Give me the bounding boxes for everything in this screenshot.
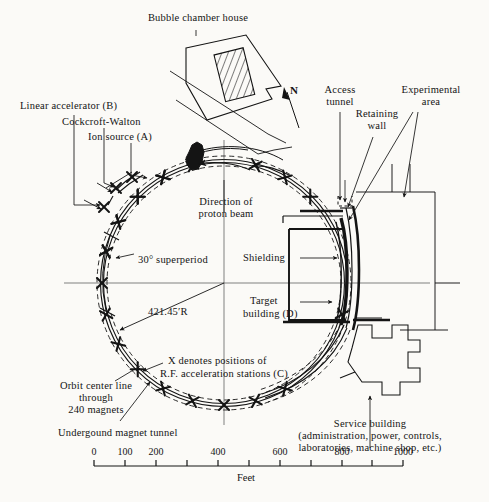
injection-beamline bbox=[84, 172, 143, 212]
scale-unit-label: Feet bbox=[216, 472, 276, 483]
scale-tick-label-400: 400 bbox=[204, 446, 232, 457]
label-service-building-line1: Service building bbox=[300, 418, 440, 431]
label-shielding: Shielding bbox=[243, 252, 285, 265]
label-experimental-area-line1: Experimental bbox=[392, 84, 470, 97]
label-underground-tunnel: Undergound magnet tunnel bbox=[58, 427, 178, 440]
label-linear-accelerator: Linear accelerator (B) bbox=[20, 100, 117, 113]
scale-bar bbox=[94, 460, 403, 466]
service-building bbox=[340, 325, 420, 395]
label-experimental-area-line2: area bbox=[392, 96, 470, 109]
scale-tick-label-0: 0 bbox=[84, 446, 104, 457]
scale-tick-label-800: 800 bbox=[328, 446, 356, 457]
label-rf-stations-line1: X denotes positions of bbox=[168, 355, 267, 368]
label-orbit-center-line3: 240 magnets bbox=[38, 404, 154, 417]
label-cockcroft-walton: Cockcroft-Walton bbox=[62, 116, 141, 129]
label-orbit-center-line1: Orbit center line bbox=[38, 380, 154, 393]
scale-tick-label-600: 600 bbox=[266, 446, 294, 457]
label-orbit-center-line2: through bbox=[38, 392, 154, 405]
label-access-tunnel-line1: Access bbox=[312, 84, 368, 97]
label-service-building-line2: (administration, power, controls, bbox=[282, 430, 458, 443]
scale-tick-label-1000: 1000 bbox=[386, 446, 420, 457]
scale-tick-label-200: 200 bbox=[142, 446, 170, 457]
label-target-building-line2: building (D) bbox=[243, 308, 298, 321]
bubble-chamber-house bbox=[170, 35, 292, 154]
label-ion-source: Ion source (A) bbox=[88, 131, 152, 144]
scale-tick-label-100: 100 bbox=[111, 446, 139, 457]
label-beam-direction-line1: Direction of bbox=[178, 196, 274, 209]
label-target-building-line1: Target bbox=[250, 295, 278, 308]
ion-source-blob bbox=[186, 142, 204, 170]
label-radius: 421.45′R bbox=[148, 306, 188, 319]
label-service-building-line3: laboratories, machine shop, etc.) bbox=[282, 442, 458, 455]
label-beam-direction-line2: proton beam bbox=[178, 208, 274, 221]
label-rf-stations-line2: R.F. acceleration stations (C) bbox=[160, 368, 288, 381]
label-access-tunnel-line2: tunnel bbox=[312, 96, 368, 109]
label-superperiod: 30° superperiod bbox=[138, 254, 208, 267]
label-bubble-chamber-house: Bubble chamber house bbox=[123, 12, 273, 25]
experimental-area bbox=[356, 164, 460, 330]
label-retaining-wall-line1: Retaining bbox=[346, 108, 408, 121]
figure-page: Bubble chamber house Linear accelerator … bbox=[0, 0, 489, 502]
label-north: N bbox=[290, 84, 298, 97]
target-building bbox=[283, 211, 390, 322]
label-retaining-wall-line2: wall bbox=[346, 120, 408, 133]
